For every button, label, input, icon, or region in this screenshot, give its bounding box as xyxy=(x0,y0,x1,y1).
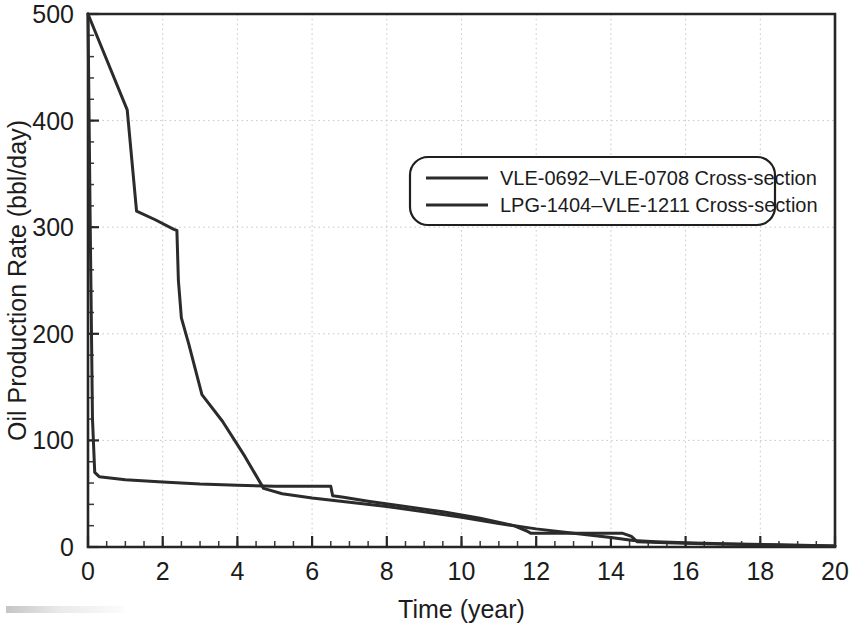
y-tick-label: 200 xyxy=(32,320,74,348)
figure-container: 02468101214161820 0100200300400500 Time … xyxy=(0,0,854,627)
y-tick-label: 400 xyxy=(32,107,74,135)
x-tick-label: 10 xyxy=(448,557,476,585)
legend-label-lpg-1404-vle-1211: LPG-1404–VLE-1211 Cross-section xyxy=(500,194,818,216)
x-tick-label: 4 xyxy=(230,557,244,585)
y-axis-title: Oil Production Rate (bbl/day) xyxy=(3,120,31,441)
x-tick-label: 18 xyxy=(746,557,774,585)
x-tick-label: 6 xyxy=(305,557,319,585)
x-tick-label: 8 xyxy=(380,557,394,585)
y-tick-label: 100 xyxy=(32,426,74,454)
oil-production-rate-chart: 02468101214161820 0100200300400500 Time … xyxy=(0,0,854,627)
x-tick-label: 14 xyxy=(597,557,625,585)
x-tick-label: 16 xyxy=(672,557,700,585)
chart-legend: VLE-0692–VLE-0708 Cross-section LPG-1404… xyxy=(410,157,818,225)
legend-label-vle-0692-vle-0708: VLE-0692–VLE-0708 Cross-section xyxy=(500,167,817,189)
chart-background xyxy=(0,0,854,627)
y-tick-label: 500 xyxy=(32,0,74,28)
x-tick-label: 12 xyxy=(522,557,550,585)
y-tick-label: 0 xyxy=(60,533,74,561)
x-axis-title: Time (year) xyxy=(398,595,525,623)
y-tick-label: 300 xyxy=(32,213,74,241)
x-tick-label: 0 xyxy=(81,557,95,585)
x-tick-label: 2 xyxy=(156,557,170,585)
x-tick-label: 20 xyxy=(821,557,849,585)
